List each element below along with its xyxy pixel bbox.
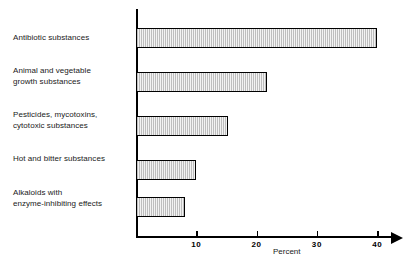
value-axis-tick-mark [196,231,197,236]
value-axis-tick-label: 10 [191,240,201,249]
value-axis-tick-mark [377,231,378,236]
category-label-animal-vegetable-growth: Animal and vegetable growth substances [13,66,91,87]
bar-hot-bitter-substances [136,160,196,180]
category-label-pesticides-mycotoxins-cytotoxic: Pesticides, mycotoxins, cytotoxic substa… [13,110,97,131]
bar-animal-vegetable-growth [136,72,267,92]
value-axis-tick-label: 20 [252,240,262,249]
bar-alkaloids-enzyme-inhibiting [136,197,185,217]
value-axis-arrow-icon [391,232,403,244]
value-axis-tick-mark [257,231,258,236]
plot-area: 10203040 [136,9,408,247]
category-label-hot-bitter-substances: Hot and bitter substances [13,154,105,165]
category-label-alkaloids-enzyme-inhibiting: Alkaloids with enzyme-inhibiting effects [13,188,102,209]
value-axis-tick-mark [317,231,318,236]
bar-pesticides-mycotoxins-cytotoxic [136,116,228,136]
value-axis-title: Percent [273,247,301,256]
bar-chart: Antibiotic substances Animal and vegetab… [0,0,417,265]
value-axis-tick-label: 30 [312,240,322,249]
category-label-antibiotic-substances: Antibiotic substances [13,33,89,44]
bar-antibiotic-substances [136,28,377,48]
value-axis-tick-label: 40 [372,240,382,249]
value-axis-line [136,236,394,238]
